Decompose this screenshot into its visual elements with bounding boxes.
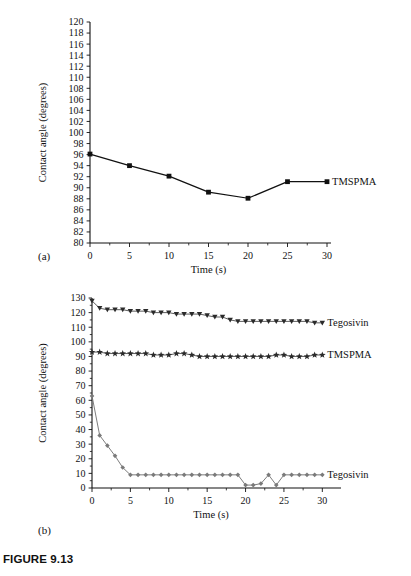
data-marker: [246, 196, 251, 201]
y-axis-ticks: 0102030405060708090100110120130: [71, 292, 93, 493]
data-marker: [311, 351, 318, 357]
data-marker: [135, 350, 142, 356]
data-marker: [127, 163, 132, 168]
y-tick-label: 116: [69, 39, 84, 50]
data-marker: [213, 473, 218, 478]
x-tick-label: 25: [279, 495, 289, 506]
data-marker: [189, 473, 194, 478]
y-axis-title: Contact angle (degrees): [37, 343, 49, 443]
axes: [92, 298, 341, 488]
data-marker: [88, 152, 93, 157]
data-marker: [174, 473, 179, 478]
y-tick-label: 106: [69, 94, 84, 105]
data-marker: [119, 350, 126, 356]
x-tick-label: 10: [164, 250, 174, 261]
y-tick-label: 130: [71, 292, 86, 303]
series-3-tegosivin: Tegosivin: [90, 394, 370, 488]
y-tick-label: 80: [76, 365, 86, 376]
x-tick-label: 15: [202, 495, 212, 506]
x-tick-label: 15: [204, 250, 214, 261]
data-marker: [166, 473, 171, 478]
data-marker: [250, 353, 257, 359]
x-axis-ticks: 051015202530: [88, 243, 333, 261]
data-marker: [289, 473, 294, 478]
data-marker: [242, 353, 249, 359]
y-tick-label: 70: [76, 380, 86, 391]
y-tick-label: 40: [76, 424, 86, 435]
x-tick-label: 30: [317, 495, 327, 506]
series-1-tegosivin: Tegosivin: [89, 299, 369, 329]
data-marker: [304, 353, 311, 359]
data-marker: [212, 353, 219, 359]
data-marker: [297, 473, 302, 478]
series-line: [92, 396, 322, 485]
x-tick-label: 25: [283, 250, 293, 261]
data-marker: [258, 353, 265, 359]
data-marker: [127, 350, 134, 356]
data-marker: [205, 473, 210, 478]
data-marker: [104, 350, 111, 356]
data-marker: [188, 351, 195, 357]
x-tick-label: 5: [128, 495, 133, 506]
y-tick-label: 60: [76, 395, 86, 406]
series-line: [92, 301, 322, 323]
data-marker: [265, 353, 272, 359]
y-tick-label: 114: [69, 50, 84, 61]
chart-panel-a: 8082848688909294969810010210410610811011…: [0, 0, 411, 280]
data-marker: [182, 473, 187, 478]
data-marker: [151, 473, 156, 478]
figure-caption: FIGURE 9.13: [3, 553, 73, 565]
data-marker: [173, 350, 180, 356]
data-marker: [288, 353, 295, 359]
data-marker: [112, 350, 119, 356]
axes: [90, 22, 331, 243]
series-label: TMSPMA: [327, 349, 372, 360]
data-marker: [285, 179, 290, 184]
x-tick-label: 0: [88, 250, 93, 261]
y-tick-label: 50: [76, 409, 86, 420]
y-tick-label: 120: [71, 307, 86, 318]
contact-angle-chart-a: 8082848688909294969810010210410610811011…: [0, 0, 411, 280]
chart-panel-b: 0102030405060708090100110120130051015202…: [0, 280, 411, 536]
series-1-tmspma: TMSPMA: [88, 152, 377, 201]
y-tick-label: 30: [76, 439, 86, 450]
data-marker: [219, 353, 226, 359]
series-label: Tegosivin: [327, 317, 369, 328]
y-axis-ticks: 8082848688909294969810010210410610811011…: [69, 16, 91, 248]
y-tick-label: 110: [71, 322, 86, 333]
x-axis-ticks: 051015202530: [90, 488, 328, 506]
x-tick-label: 20: [243, 250, 253, 261]
data-marker: [325, 179, 330, 184]
data-marker: [296, 353, 303, 359]
x-axis-title: Time (s): [193, 509, 229, 521]
data-marker: [167, 174, 172, 179]
data-marker: [142, 350, 149, 356]
data-marker: [319, 351, 326, 357]
data-marker: [312, 473, 317, 478]
contact-angle-chart-b: 0102030405060708090100110120130051015202…: [0, 280, 411, 536]
y-tick-label: 82: [74, 226, 84, 237]
data-marker: [227, 353, 234, 359]
y-tick-label: 112: [69, 61, 84, 72]
data-marker: [235, 353, 242, 359]
data-marker: [197, 473, 202, 478]
data-marker: [181, 350, 188, 356]
x-tick-label: 10: [164, 495, 174, 506]
data-marker: [273, 351, 280, 357]
y-axis-title: Contact angle (degrees): [37, 82, 49, 182]
data-marker: [206, 190, 211, 195]
y-tick-label: 86: [74, 204, 84, 215]
data-marker: [90, 394, 95, 399]
x-tick-label: 20: [241, 495, 251, 506]
y-tick-label: 102: [69, 116, 84, 127]
data-marker: [220, 473, 225, 478]
data-marker: [251, 483, 256, 488]
data-marker: [281, 351, 288, 357]
data-marker: [136, 473, 141, 478]
x-tick-label: 5: [127, 250, 132, 261]
y-tick-label: 104: [69, 105, 84, 116]
y-tick-label: 110: [69, 72, 84, 83]
data-marker: [158, 351, 165, 357]
data-marker: [165, 351, 172, 357]
y-tick-label: 92: [74, 171, 84, 182]
